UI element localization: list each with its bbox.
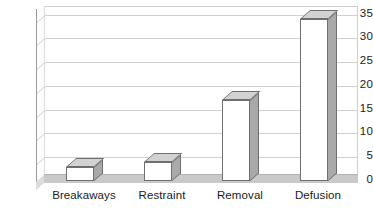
bar (222, 91, 259, 181)
y-tick-label: 5 (343, 149, 373, 161)
bar-front-face (66, 167, 94, 181)
x-tick-label: Breakaways (45, 189, 123, 201)
bar-front-face (300, 19, 328, 181)
bar-side-face (250, 92, 259, 181)
bar (144, 153, 181, 181)
bar-front-face (222, 100, 250, 181)
bar (300, 10, 337, 181)
y-tick-label: 30 (343, 30, 373, 42)
x-tick-label: Removal (201, 189, 279, 201)
y-tick-label: 20 (343, 78, 373, 90)
bar (66, 158, 103, 181)
bar-front-face (144, 162, 172, 181)
y-tick-label: 15 (343, 102, 373, 114)
y-tick-label: 10 (343, 125, 373, 137)
bar-side-face (328, 11, 337, 181)
plot-area: 05101520253035 BreakawaysRestraintRemova… (0, 0, 373, 215)
x-tick-label: Restraint (123, 189, 201, 201)
y-axis-line (36, 9, 37, 183)
plot-leftwall (36, 6, 45, 182)
y-tick-label: 35 (343, 7, 373, 19)
bar-chart: 05101520253035 BreakawaysRestraintRemova… (0, 0, 373, 215)
x-tick-label: Defusion (279, 189, 357, 201)
y-tick-label: 25 (343, 54, 373, 66)
